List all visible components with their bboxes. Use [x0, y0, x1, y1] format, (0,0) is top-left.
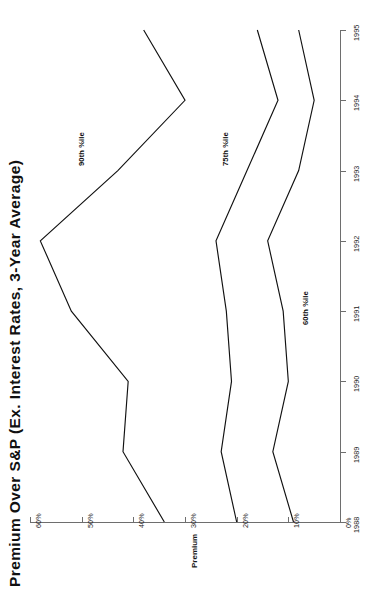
series-label-60th: 60th %ile	[301, 291, 310, 325]
series-line-p60	[268, 30, 315, 522]
chart-canvas: Premium Over S&P (Ex. Interest Rates, 3-…	[0, 0, 379, 601]
series-label-75th: 75th %ile	[221, 132, 230, 166]
plot-area: 0%10%20%30%40%50%60% 1988198919901991199…	[0, 0, 379, 601]
series-line-p75	[216, 30, 278, 522]
series-line-p90	[40, 30, 185, 522]
series-lines	[0, 0, 379, 601]
series-label-90th: 90th %ile	[77, 132, 86, 166]
